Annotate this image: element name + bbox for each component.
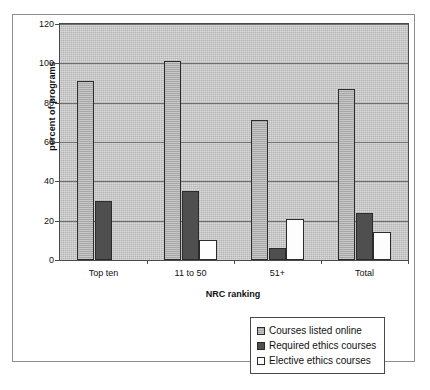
y-tick-label: 100: [39, 58, 54, 68]
bar: [251, 120, 269, 260]
y-tick-label: 0: [49, 255, 54, 265]
x-category-label: 51+: [270, 268, 285, 278]
y-tick-label: 20: [44, 216, 54, 226]
y-tick-mark: [55, 142, 59, 143]
legend-item[interactable]: Courses listed online: [257, 323, 376, 338]
legend-swatch-icon: [257, 357, 265, 365]
bar: [338, 89, 356, 260]
gridline: [60, 103, 408, 104]
plot-area: 020406080100120Top ten11 to 5051+Total: [59, 23, 409, 261]
legend-swatch-icon: [257, 342, 265, 350]
x-category-label: Top ten: [89, 268, 119, 278]
legend-item[interactable]: Required ethics courses: [257, 338, 376, 353]
chart-frame: percent of programs 020406080100120Top t…: [12, 14, 415, 362]
bar: [77, 81, 95, 260]
y-tick-label: 120: [39, 19, 54, 29]
y-tick-label: 60: [44, 137, 54, 147]
gridline: [60, 63, 408, 64]
chart-legend: Courses listed onlineRequired ethics cou…: [250, 317, 385, 374]
y-tick-mark: [55, 181, 59, 182]
bar: [286, 219, 304, 260]
y-tick-mark: [55, 221, 59, 222]
x-tick-mark: [147, 260, 148, 264]
gridline: [60, 142, 408, 143]
legend-swatch-icon: [257, 327, 265, 335]
legend-label: Required ethics courses: [269, 340, 376, 351]
x-axis-title: NRC ranking: [59, 289, 407, 299]
legend-label: Courses listed online: [269, 325, 362, 336]
bar: [164, 61, 182, 260]
bar: [269, 248, 287, 260]
x-tick-mark: [408, 260, 409, 264]
bar: [95, 201, 113, 260]
bar: [373, 232, 391, 260]
bar: [182, 191, 200, 260]
y-tick-mark: [55, 63, 59, 64]
bar: [199, 240, 217, 260]
bar: [356, 213, 374, 260]
legend-label: Elective ethics courses: [269, 355, 371, 366]
x-tick-mark: [321, 260, 322, 264]
x-tick-mark: [234, 260, 235, 264]
y-tick-label: 80: [44, 98, 54, 108]
x-category-label: Total: [355, 268, 374, 278]
gridline: [60, 24, 408, 25]
gridline: [60, 181, 408, 182]
y-tick-label: 40: [44, 176, 54, 186]
legend-item[interactable]: Elective ethics courses: [257, 353, 376, 368]
y-tick-mark: [55, 103, 59, 104]
y-tick-mark: [55, 24, 59, 25]
x-category-label: 11 to 50: [175, 268, 207, 278]
y-tick-mark: [55, 260, 59, 261]
